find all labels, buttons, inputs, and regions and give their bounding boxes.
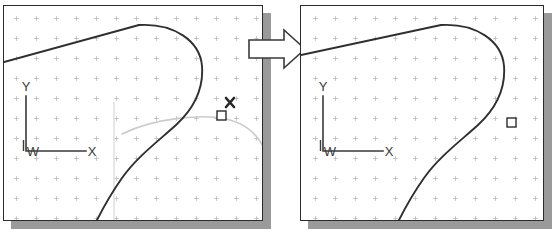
- drawing-canvas-after[interactable]: Y X W: [300, 5, 544, 221]
- drawing-canvas-before[interactable]: Y X W: [3, 5, 263, 221]
- ucs-x-label: X: [385, 144, 394, 159]
- ucs-x-label: X: [88, 144, 97, 159]
- ucs-y-label: Y: [319, 79, 328, 94]
- drawing-svg-before: Y X W: [4, 6, 263, 221]
- ucs-origin-label: W: [27, 144, 40, 159]
- before-panel: Y X W: [3, 5, 271, 229]
- after-panel: Y X W: [300, 5, 552, 229]
- pick-box[interactable]: [507, 118, 516, 127]
- ucs-y-label: Y: [22, 79, 31, 94]
- figure-stage: Y X W: [0, 0, 555, 241]
- drawing-svg-after: Y X W: [301, 6, 544, 221]
- transition-arrow: [248, 28, 308, 70]
- pick-box[interactable]: [217, 111, 226, 120]
- ucs-origin-label: W: [324, 144, 337, 159]
- grid-dots: [301, 6, 544, 221]
- arrow-right-icon: [248, 28, 308, 70]
